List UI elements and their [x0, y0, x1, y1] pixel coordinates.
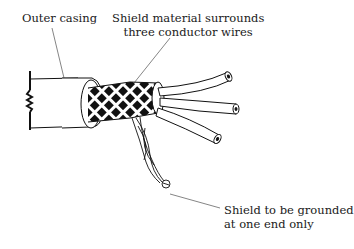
outer-casing-label: Outer casing — [22, 11, 97, 25]
shield-label-line-1: Shield material surrounds — [112, 11, 264, 25]
ground-label-line-2: at one end only — [224, 217, 354, 231]
shield-ground-lead — [132, 117, 170, 188]
shield-material-label: Shield material surrounds three conducto… — [112, 11, 264, 39]
ground-label-line-1: Shield to be grounded — [224, 203, 354, 217]
conductor-wires — [156, 71, 239, 145]
shield-label-line-2: three conductor wires — [112, 25, 264, 39]
conductor-wire-3 — [156, 108, 219, 143]
conductor-wire-1 — [158, 73, 231, 96]
conductor-wire-2 — [160, 98, 236, 114]
ground-note-label: Shield to be grounded at one end only — [224, 203, 354, 231]
